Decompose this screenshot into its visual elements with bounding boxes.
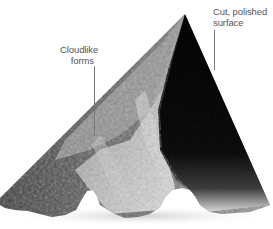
annotation-cloudlike-forms: Cloudlike forms xyxy=(60,44,94,66)
annotation-cut-polished-surface: Cut, polished surface xyxy=(213,6,267,28)
annotation-line: forms xyxy=(60,55,94,66)
annotation-line: Cloudlike xyxy=(60,44,94,55)
annotation-line: surface xyxy=(213,17,267,28)
leader-line-cut xyxy=(214,30,215,70)
specimen-photo xyxy=(0,0,273,229)
leader-line-cloud xyxy=(94,66,95,136)
annotation-line: Cut, polished xyxy=(213,6,267,17)
specimen-illustration xyxy=(0,0,273,229)
